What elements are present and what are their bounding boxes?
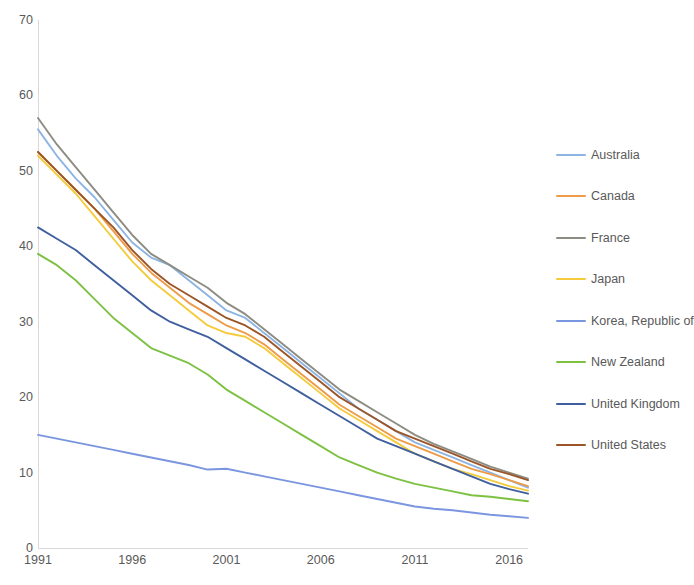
legend-item-united-kingdom[interactable]: United Kingdom [556, 383, 694, 425]
legend-color-swatch [556, 154, 586, 156]
series-lines [38, 20, 528, 548]
legend-color-swatch [556, 444, 586, 446]
series-line-japan [38, 156, 528, 491]
x-tick-label: 1996 [118, 554, 146, 567]
series-line-canada [38, 152, 528, 486]
legend-color-swatch [556, 320, 586, 322]
legend-item-france[interactable]: France [556, 217, 694, 259]
x-tick-label: 2011 [401, 554, 428, 567]
legend-color-swatch [556, 361, 586, 363]
legend-label: France [591, 232, 630, 245]
legend-color-swatch [556, 195, 586, 197]
legend-label: United States [591, 439, 666, 452]
legend-label: Korea, Republic of [591, 315, 694, 328]
legend-color-swatch [556, 278, 586, 280]
chart-legend: AustraliaCanadaFranceJapanKorea, Republi… [556, 134, 694, 466]
x-tick-label: 2006 [307, 554, 335, 567]
legend-item-united-states[interactable]: United States [556, 425, 694, 467]
legend-label: Australia [591, 149, 640, 162]
x-tick-label: 2001 [213, 554, 241, 567]
legend-item-korea-republic-of[interactable]: Korea, Republic of [556, 300, 694, 342]
series-line-australia [38, 129, 528, 487]
x-tick-label: 2016 [495, 554, 523, 567]
legend-label: New Zealand [591, 356, 665, 369]
plot-area [38, 20, 528, 548]
legend-item-australia[interactable]: Australia [556, 134, 694, 176]
series-line-korea-republic-of [38, 435, 528, 518]
series-line-new-zealand [38, 254, 528, 501]
legend-item-new-zealand[interactable]: New Zealand [556, 342, 694, 384]
legend-label: United Kingdom [591, 398, 680, 411]
legend-label: Canada [591, 190, 635, 203]
legend-color-swatch [556, 403, 586, 405]
legend-item-canada[interactable]: Canada [556, 176, 694, 218]
legend-label: Japan [591, 273, 625, 286]
line-chart: 010203040506070 199119962001200620112016… [0, 0, 694, 585]
legend-item-japan[interactable]: Japan [556, 259, 694, 301]
legend-color-swatch [556, 237, 586, 239]
x-tick-label: 1991 [24, 554, 52, 567]
